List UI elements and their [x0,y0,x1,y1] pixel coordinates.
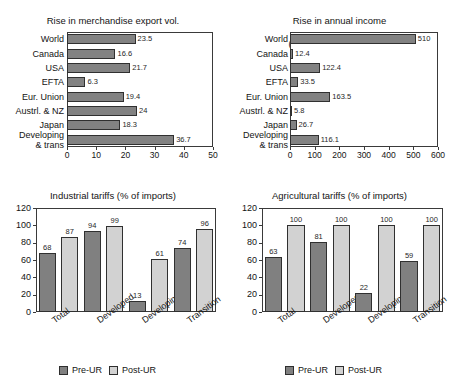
category-label: World [230,34,288,44]
axis-tick-label: 60 [4,256,31,265]
category-label: World [3,34,64,44]
axis-tick [259,225,262,226]
axis-tick [259,312,262,313]
bar-pre-ur [174,248,191,312]
bar [290,34,416,44]
axis-tick [33,312,36,313]
bar [67,135,174,145]
bar-value-label: 100 [284,216,307,224]
legend-label-post-ur: Post-UR [348,365,382,375]
chart-title: Industrial tariffs (% of imports) [0,190,226,202]
axis-tick [259,208,262,209]
bar [67,77,85,87]
bar-value-label: 116.1 [321,136,339,144]
category-label: Eur. Union [3,92,64,102]
category-label: Eur. Union [230,92,288,102]
axis-tick-label: 40 [4,273,31,282]
legend-industrial: Pre-UR Post-UR [59,365,156,375]
bar-value-label: 74 [171,239,194,247]
bar-value-label: 36.7 [176,136,191,144]
bar [290,77,298,87]
bar-value-label: 18.3 [122,121,137,129]
axis-tick-label: 40 [170,151,198,160]
bar-value-label: 510 [418,35,431,43]
bar-value-label: 24 [139,107,147,115]
bar-pre-ur [265,257,282,312]
legend-item-post-ur: Post-UR [109,365,156,375]
plot-area [290,32,438,147]
axis-tick-label: 100 [4,221,31,230]
bar [67,120,120,130]
bar-value-label: 163.5 [332,93,351,101]
axis-tick-label: 80 [230,238,257,247]
bar-value-label: 61 [148,250,171,258]
bar-pre-ur [355,293,372,312]
bar-value-label: 5.8 [294,107,304,115]
bar-pre-ur [310,242,327,312]
axis-tick-label: 50 [199,151,227,160]
bar-pre-ur [84,231,101,312]
bar-value-label: 6.3 [87,78,97,86]
axis-tick [259,277,262,278]
chart-title: Agricultural tariffs (% of imports) [226,190,453,202]
legend-item-post-ur: Post-UR [335,365,382,375]
bar-value-label: 68 [36,244,59,252]
bar-value-label: 100 [420,216,443,224]
axis-tick-label: 20 [111,151,139,160]
bar [290,135,319,145]
axis-tick-label: 120 [4,204,31,213]
axis-tick [33,277,36,278]
chart-title-line1: Rise in merchandise export vol. [47,15,180,26]
bar-pre-ur [129,301,146,312]
bar-value-label: 23.5 [138,35,153,43]
axis-tick-label: 80 [4,238,31,247]
bar-value-label: 94 [81,222,104,230]
legend-swatch-pre-ur-icon [285,366,294,375]
category-label: Austrl. & NZ [230,106,288,116]
bar [67,34,136,44]
legend-label-post-ur: Post-UR [122,365,156,375]
bar [290,63,320,73]
bar-value-label: 22 [352,284,375,292]
legend-agricultural: Pre-UR Post-UR [285,365,382,375]
bar [290,106,292,116]
bar-value-label: 100 [375,216,398,224]
bar-pre-ur [400,261,417,312]
category-label: EFTA [3,77,64,87]
legend-swatch-post-ur-icon [335,366,344,375]
bar-value-label: 81 [307,233,330,241]
axis-tick-label: 600 [424,151,452,160]
category-label: Canada [230,49,288,59]
chart-industrial-tariffs: Industrial tariffs (% of imports) 020406… [0,188,226,358]
bar-value-label: 122.4 [322,64,341,72]
chart-title-line1: Rise in annual income [293,15,386,26]
chart-agricultural-tariffs: Agricultural tariffs (% of imports) 0204… [226,188,453,358]
legend-item-pre-ur: Pre-UR [59,365,102,375]
axis-tick-label: 0 [53,151,81,160]
category-label: Austrl. & NZ [3,106,64,116]
bar-value-label: 99 [103,217,126,225]
bar-value-label: 33.5 [300,78,315,86]
axis-tick-label: 10 [82,151,110,160]
bar-post-ur [61,237,78,312]
bar-value-label: 12.4 [295,50,310,58]
bar [67,49,115,59]
axis-tick [33,295,36,296]
bar-value-label: 19.4 [126,93,141,101]
legend-label-pre-ur: Pre-UR [298,365,328,375]
category-label: USA [230,63,288,73]
bar-pre-ur [39,253,56,312]
legend-swatch-post-ur-icon [109,366,118,375]
axis-tick-label: 120 [230,204,257,213]
category-label: EFTA [230,77,288,87]
bar-value-label: 100 [330,216,353,224]
bar-value-label: 26.7 [299,121,314,129]
bar-value-label: 87 [58,228,81,236]
bar [290,120,297,130]
legend-item-pre-ur: Pre-UR [285,365,328,375]
legend-swatch-pre-ur-icon [59,366,68,375]
axis-tick-label: 100 [230,221,257,230]
axis-tick [259,243,262,244]
axis-tick-label: 0 [4,308,31,317]
axis-tick-label: 60 [230,256,257,265]
